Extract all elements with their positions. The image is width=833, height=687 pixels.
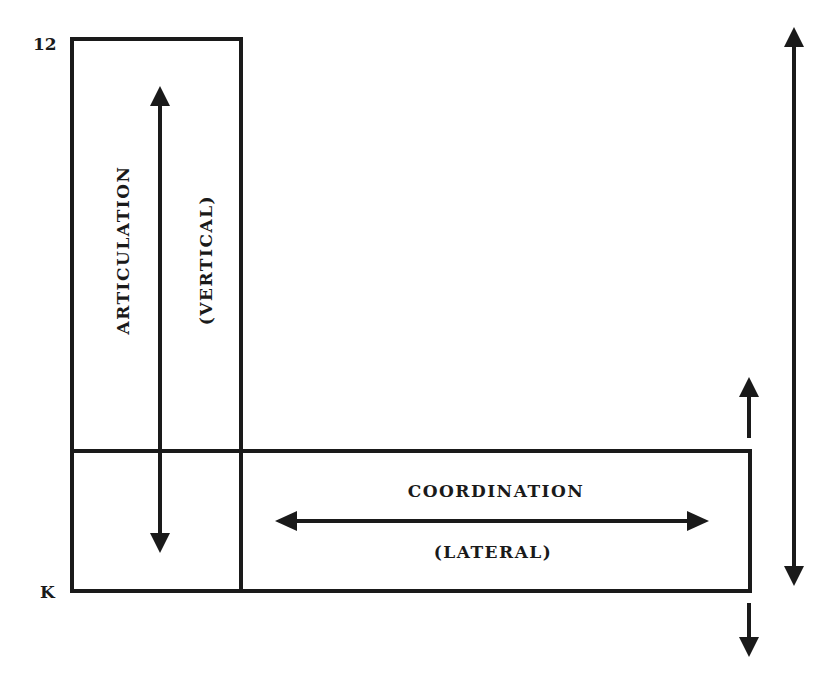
expand-up-arrow-icon — [739, 377, 759, 438]
articulation-coordination-diagram: 12 K ARTICULATION (VERTICAL) COORDINATIO… — [0, 0, 833, 687]
grade-top-label: 12 — [33, 34, 57, 54]
articulation-title: ARTICULATION — [113, 165, 133, 335]
articulation-subtitle: (VERTICAL) — [196, 195, 216, 325]
grade-bottom-label: K — [40, 582, 56, 602]
expand-down-arrow-icon — [739, 603, 759, 657]
coordination-title: COORDINATION — [408, 481, 585, 501]
coordination-arrow-icon — [275, 511, 709, 531]
span-arrow-icon — [784, 27, 804, 586]
articulation-arrow-icon — [150, 86, 170, 553]
coordination-subtitle: (LATERAL) — [434, 542, 553, 562]
